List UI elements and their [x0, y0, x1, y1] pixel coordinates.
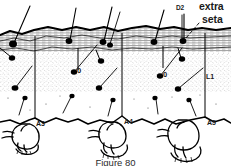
a3-label: A3: [36, 120, 45, 127]
figure-illustration: D2 extra seta L1 0 0 A3 A4 A5 Figure 80: [0, 0, 231, 166]
figure-caption: Figure 80: [0, 157, 231, 166]
l1-pinaculum: [175, 86, 181, 92]
proleg-a5: [157, 120, 201, 161]
extra-seta-label-line1: extra: [199, 1, 224, 12]
ventral-setae-group: [19, 97, 196, 116]
zero-label-left: 0: [77, 67, 81, 75]
l1-label: L1: [206, 73, 214, 80]
left-ventral-pinaculum: [12, 85, 19, 91]
d2-label: D2: [176, 5, 184, 12]
proleg-a4: [88, 122, 127, 157]
zero-label-right: 0: [163, 71, 167, 79]
a4-label: A4: [124, 118, 133, 125]
caterpillar-segment-drawing: [0, 0, 231, 166]
proleg-a3: [2, 124, 39, 154]
ventral-seta-bases: [22, 94, 191, 103]
mid-ventral-pinaculum: [96, 85, 102, 90]
a5-label: A5: [207, 119, 216, 126]
extra-seta-label-line2: seta: [202, 14, 223, 25]
